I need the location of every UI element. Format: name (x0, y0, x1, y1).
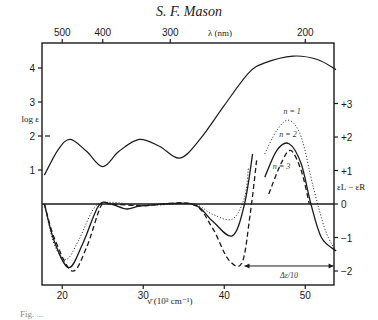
left-tick-label: 2 (29, 131, 35, 142)
right-axis-title: εL − εR (337, 182, 365, 192)
top-tick-label: 300 (162, 27, 179, 38)
right-tick-label: 0 (341, 199, 347, 210)
x-axis-title: ν̄ (10³ cm⁻¹) (148, 296, 193, 306)
left-tick-label: 4 (29, 63, 35, 74)
spectrum-figure: 20304050ν̄ (10³ cm⁻¹)500400300200λ (nm)1… (0, 0, 378, 320)
top-tick-label: 400 (94, 27, 111, 38)
right-tick-label: −1 (341, 233, 353, 244)
label-n1: n = 1 (283, 107, 300, 116)
label-n2: n = 2 (279, 130, 296, 139)
delta-epsilon-label: Δε/10 (279, 271, 298, 280)
arrowhead-left-icon (245, 263, 250, 268)
cd-curve-n3-band2 (269, 150, 310, 204)
cd-curve-n3 (44, 160, 256, 271)
right-tick-label: +1 (341, 166, 353, 177)
figure-caption-partial: Fig. ... (20, 309, 360, 320)
x-tick-label: 20 (57, 290, 69, 301)
left-tick-label: 3 (29, 97, 35, 108)
right-tick-label: +2 (341, 132, 353, 143)
label-n3: n = 3 (273, 162, 290, 171)
cd-curve-n1-band2 (265, 120, 336, 251)
right-tick-label: −2 (341, 266, 353, 277)
top-axis-title: λ (nm) (208, 28, 232, 38)
top-tick-label: 500 (54, 27, 71, 38)
top-tick-label: 200 (297, 27, 314, 38)
right-tick-label: +3 (341, 99, 353, 110)
left-axis-title: log ε (21, 114, 39, 124)
left-tick-label: 1 (29, 165, 35, 176)
cd-curve-n1 (44, 167, 248, 259)
cd-curve-n2-band2 (265, 143, 336, 251)
arrowhead-right-icon (329, 263, 334, 268)
x-tick-label: 40 (219, 290, 231, 301)
x-tick-label: 50 (300, 290, 312, 301)
cd-curve-n2 (44, 154, 252, 268)
